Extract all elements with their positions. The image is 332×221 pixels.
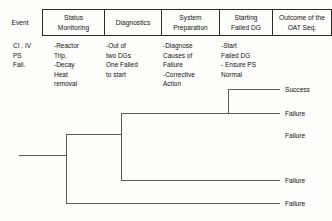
tree-trunk-line [19,155,67,156]
outcome-label-5: Failure [285,200,305,208]
tree-branch-3-success [228,89,280,90]
event-tree-branches [0,0,332,221]
tree-split-2-vertical [121,113,122,181]
outcome-label-2: Failure [285,110,305,118]
tree-split-1-vertical [66,134,67,204]
tree-branch-2-failure [121,180,280,181]
event-tree-diagram: Event Status Monitoring Diagnostics Syst… [0,0,332,221]
tree-branch-1-success [66,134,122,135]
tree-branch-1-failure [66,203,280,204]
outcome-label-3: Failure [285,132,305,140]
tree-branch-3-failure [228,113,280,114]
tree-split-3-vertical [228,89,229,114]
tree-branch-2-success [121,113,229,114]
outcome-label-4: Failure [285,177,305,185]
outcome-label-1: Success [285,86,310,94]
